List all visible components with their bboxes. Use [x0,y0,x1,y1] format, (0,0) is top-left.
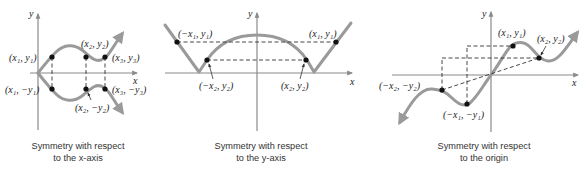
panel-y-axis-symmetry: y x (−x₁, y₁) (x₁, y₁) (−x₂, y₂) (x₂, y₂… [165,8,355,163]
point-neg-x2-neg-y2 [439,87,444,92]
point-x2-y2 [536,55,541,60]
point-x1-y1 [510,43,515,48]
point-x3-neg-y3 [102,86,107,91]
label-x1-y1: (x₁, y₁) [309,28,337,40]
label-x1-y1: (x₁, y₁) [498,27,526,39]
point-x2-y2 [303,57,308,62]
caption-line-2: to the y-axis [236,153,286,163]
point-neg-x1-y1 [174,39,179,44]
label-x2-y2: (x₂, y₂) [81,38,109,50]
caption-line-1: Symmetry with respect [215,141,308,151]
x-axis-label: x [571,77,577,88]
label-neg-x1-y1: (−x₁, y₁) [178,28,213,40]
symmetry-diagrams: y x (x₁, y₁) (x₂, y₂) (x₃, y₃) (x₁, −y₁)… [0,0,584,173]
caption-line-2: to the origin [460,153,508,163]
point-neg-x1-neg-y1 [464,101,469,106]
pointer-arrow-left [209,64,213,79]
upper-curve [38,34,122,73]
label-neg-x2-y2: (−x₂, y₂) [199,80,234,92]
point-x1-y1 [333,39,338,44]
caption-line-2: to the x-axis [53,153,103,163]
point-x1-neg-y1 [49,86,54,91]
pointer-arrow [541,46,546,55]
label-x3-neg-y3: (x₃, −y₃) [112,84,147,96]
label-x1-y1: (x₁, y₁) [9,52,37,64]
pointer-arrow [88,93,91,100]
caption-line-1: Symmetry with respect [438,141,531,151]
point-neg-x2-y2 [204,57,209,62]
caption-line-1: Symmetry with respect [32,141,125,151]
label-x2-y2: (x₂, y₂) [537,33,565,45]
label-x3-y3: (x₃, y₃) [112,52,140,64]
label-x2-neg-y2: (x₂, −y₂) [75,102,110,114]
point-x2-y2 [83,54,88,59]
pointer-arrow-right [300,64,304,79]
point-x3-y3 [102,54,107,59]
x-axis-label: x [349,76,355,87]
point-x2-neg-y2 [83,86,88,91]
label-neg-x2-neg-y2: (−x₂, −y₂) [379,80,421,92]
point-x1-y1 [49,54,54,59]
label-x2-y2: (x₂, y₂) [281,80,309,92]
panel-origin-symmetry: y x (x₁, y₁) (x₂, y₂) (−x₂, −y₂) (−x₁, −… [379,8,578,163]
y-axis-label: y [247,8,253,19]
label-x1-neg-y1: (x₁, −y₁) [5,84,40,96]
panel-x-axis-symmetry: y x (x₁, y₁) (x₂, y₂) (x₃, y₃) (x₁, −y₁)… [5,8,147,163]
y-axis-label: y [28,8,34,19]
y-axis-label: y [481,8,487,19]
label-neg-x1-neg-y1: (−x₁, −y₁) [443,109,485,121]
